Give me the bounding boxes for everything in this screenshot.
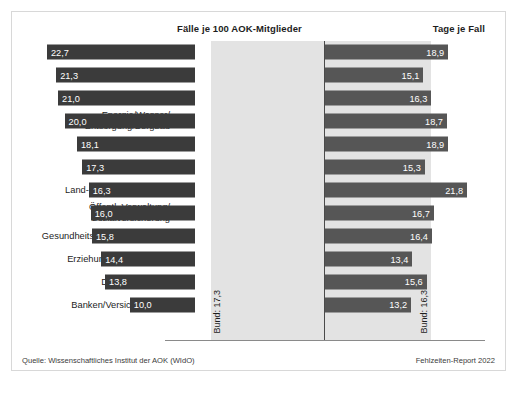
bar-left: 21,3 [56, 68, 195, 83]
bar-value-left: 21,3 [60, 70, 78, 80]
bar-right: 18,9 [325, 137, 448, 152]
bar-value-left: 16,3 [93, 185, 111, 195]
bar-left: 21,0 [58, 91, 195, 106]
bar-left: 16,0 [91, 206, 195, 221]
bar-right: 18,9 [325, 45, 448, 60]
bar-right: 15,1 [325, 68, 423, 83]
bar-value-right: 15,3 [403, 162, 421, 172]
bar-value-left: 18,1 [81, 139, 99, 149]
bar-right: 13,2 [325, 297, 411, 312]
bar-row: Dienstleistungen13,815,6 [12, 271, 507, 294]
bar-value-right: 21,8 [445, 185, 463, 195]
bar-value-left: 17,3 [86, 162, 104, 172]
bar-value-left: 20,0 [69, 116, 87, 126]
bar-value-right: 13,2 [389, 300, 407, 310]
bar-row: Verarbeitendes Gewerbe21,016,3 [12, 87, 507, 110]
bar-row: Metallindustrie21,315,1 [12, 64, 507, 87]
bar-row: Land- und Forstwirtschaft16,321,8 [12, 179, 507, 202]
bar-value-right: 15,1 [402, 70, 420, 80]
bar-row: Verkehr/Transport18,118,9 [12, 133, 507, 156]
bar-right: 15,3 [325, 160, 425, 175]
bar-value-right: 15,6 [405, 277, 423, 287]
reference-label-left: Bund: 17,3 [212, 290, 222, 334]
bar-left: 16,3 [89, 183, 195, 198]
bar-left: 10,0 [130, 297, 195, 312]
chart-footer: Quelle: Wissenschaftliches Institut der … [12, 356, 505, 372]
axis-line [165, 340, 485, 341]
bar-value-left: 13,8 [109, 277, 127, 287]
bar-value-right: 16,3 [409, 93, 427, 103]
bar-row: Energie/Wasser/ Entsorgung/Bergbau20,018… [12, 110, 507, 133]
report-note: Fehlzeiten-Report 2022 [416, 356, 495, 365]
bar-value-left: 14,4 [105, 254, 123, 264]
plot-area: Baugewerbe22,718,9Metallindustrie21,315,… [12, 41, 507, 340]
right-column-header: Tage je Fall [433, 23, 485, 34]
bar-value-left: 16,0 [95, 208, 113, 218]
bar-value-right: 18,9 [426, 47, 444, 57]
bar-left: 15,8 [92, 229, 195, 244]
bar-left: 20,0 [65, 114, 195, 129]
bar-left: 14,4 [101, 252, 195, 267]
bar-right: 16,4 [325, 229, 432, 244]
bar-value-left: 10,0 [134, 300, 152, 310]
bar-right: 15,6 [325, 274, 427, 289]
reference-label-right: Bund: 16,3 [419, 290, 429, 334]
bar-row: Baugewerbe22,718,9 [12, 41, 507, 64]
bar-right: 13,4 [325, 252, 412, 267]
bar-left: 13,8 [105, 274, 195, 289]
bar-right: 16,3 [325, 91, 431, 106]
bar-right: 21,8 [325, 183, 467, 198]
bar-right: 18,7 [325, 114, 447, 129]
bar-left: 18,1 [77, 137, 195, 152]
bar-value-left: 22,7 [51, 47, 69, 57]
left-column-header: Fälle je 100 AOK-Mitglieder [177, 23, 302, 34]
bar-value-right: 18,9 [426, 139, 444, 149]
chart-panel: Fälle je 100 AOK-Mitglieder Tage je Fall… [11, 11, 506, 371]
bar-value-left: 21,0 [62, 93, 80, 103]
bar-right: 16,7 [325, 206, 434, 221]
bar-row: Gesundheits- und Sozialwesen15,816,4 [12, 225, 507, 248]
bar-value-right: 16,4 [410, 231, 428, 241]
bar-row: Handel17,315,3 [12, 156, 507, 179]
chart-screenshot: Fälle je 100 AOK-Mitglieder Tage je Fall… [0, 0, 517, 393]
bar-value-right: 18,7 [425, 116, 443, 126]
bar-value-right: 16,7 [412, 208, 430, 218]
bar-row: Öffentl. Verwaltung/ Sozialversicherung1… [12, 202, 507, 225]
source-note: Quelle: Wissenschaftliches Institut der … [22, 356, 195, 365]
bar-value-right: 13,4 [390, 254, 408, 264]
bar-row: Banken/Versicherungen10,013,2 [12, 293, 507, 316]
bar-row: Erziehung und Unterricht14,413,4 [12, 248, 507, 271]
bar-left: 17,3 [82, 160, 195, 175]
bar-left: 22,7 [47, 45, 195, 60]
bar-value-left: 15,8 [96, 231, 114, 241]
